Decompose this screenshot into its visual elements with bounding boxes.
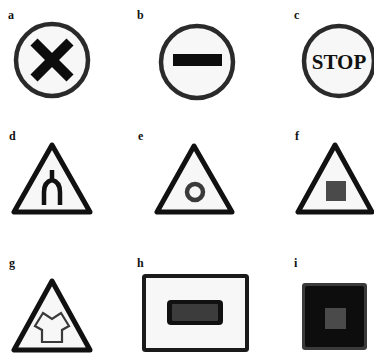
- prohibition-x-icon: [16, 24, 88, 96]
- filled-square-icon: [302, 283, 367, 350]
- panel-a: a: [8, 8, 88, 96]
- square-warning-icon: [298, 145, 372, 212]
- panel-label-d: d: [9, 129, 16, 143]
- panel-h: h: [137, 256, 247, 350]
- panel-f: f: [295, 129, 372, 212]
- panel-label-i: i: [294, 256, 298, 270]
- rectangle-bar-icon: [144, 276, 247, 350]
- panel-e: e: [138, 129, 232, 212]
- panel-label-h: h: [137, 256, 144, 270]
- panel-label-c: c: [294, 8, 300, 22]
- ring-warning-icon: [157, 146, 232, 212]
- panel-i: i: [294, 256, 367, 350]
- panel-label-g: g: [9, 256, 15, 270]
- panel-label-f: f: [295, 129, 300, 143]
- panel-label-a: a: [8, 8, 14, 22]
- shirt-warning-icon: [14, 281, 90, 350]
- stop-sign-icon: STOP: [304, 26, 374, 96]
- sign-grid: a b c STOP d e: [0, 0, 374, 356]
- panel-d: d: [9, 129, 90, 212]
- panel-b: b: [137, 8, 233, 98]
- stop-text: STOP: [312, 50, 367, 74]
- forked-road-warning-icon: [14, 145, 90, 212]
- panel-label-e: e: [138, 129, 144, 143]
- panel-c: c STOP: [294, 8, 374, 96]
- panel-label-b: b: [137, 8, 144, 22]
- no-entry-bar-icon: [161, 26, 233, 98]
- panel-g: g: [9, 256, 90, 350]
